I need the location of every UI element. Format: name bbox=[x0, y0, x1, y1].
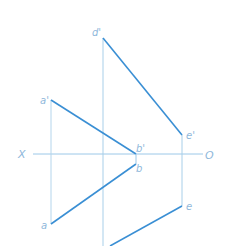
label-a: a bbox=[41, 220, 47, 231]
label-d-prime: d' bbox=[92, 27, 101, 38]
line-a-b bbox=[51, 164, 136, 224]
line-d-prime-e-prime bbox=[103, 38, 182, 135]
axis-label-o: O bbox=[205, 149, 214, 162]
axis-label-x: X bbox=[17, 148, 26, 161]
label-b-prime: b' bbox=[136, 143, 145, 154]
label-b: b bbox=[136, 163, 142, 174]
label-e-prime: e' bbox=[186, 130, 195, 141]
label-a-prime: a' bbox=[40, 95, 49, 106]
line-e-lower bbox=[110, 206, 182, 246]
label-e: e bbox=[186, 201, 192, 212]
line-a-prime-b-prime bbox=[51, 100, 136, 154]
projection-diagram: d' e' a' b' b a e X O bbox=[0, 0, 228, 246]
